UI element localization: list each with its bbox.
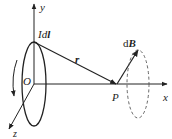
field-label: dB <box>123 37 136 49</box>
biot-savart-diagram: y Idl r dB O P x z <box>0 0 172 139</box>
current-element-label: Idl <box>37 28 51 40</box>
radius-label: r <box>75 53 80 65</box>
z-axis-label: z <box>12 128 17 139</box>
y-axis-label: y <box>39 1 45 13</box>
point-p-label: P <box>111 91 119 103</box>
field-vector-dB <box>117 50 138 84</box>
origin-label: O <box>23 75 31 87</box>
current-direction-arrow-icon <box>13 60 17 96</box>
x-axis-label: x <box>162 91 168 103</box>
